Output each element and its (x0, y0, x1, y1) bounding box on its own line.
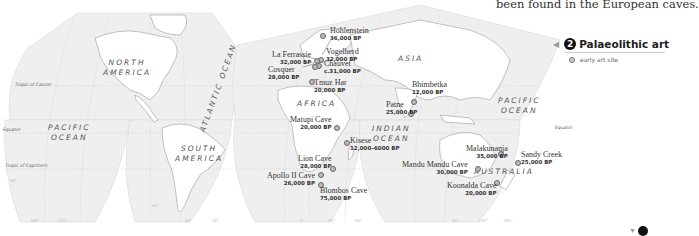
site-date: 25,000 BP (521, 159, 562, 166)
site-date: 36,000 BP (330, 35, 369, 42)
label-line: OCEAN (501, 106, 538, 115)
next-section-marker: ▼ (629, 226, 648, 236)
label-pacific-ocean-east: PACIFIC OCEAN (498, 96, 541, 116)
site-cosquer: Cosquer 28,000 BP (268, 66, 299, 81)
label-equator-west: Equator (3, 127, 21, 132)
degree-label: 120° (478, 218, 488, 223)
site-chauvet: Chauvet c.31,000 BP (324, 60, 361, 75)
degree-label: 30° (10, 178, 17, 183)
site-name: Apollo II Cave (267, 171, 315, 180)
label-line: PACIFIC (498, 96, 541, 105)
label-south-america: SOUTH AMERICA (175, 144, 223, 164)
label-tropic-of-capricorn: Tropic of Capricorn (5, 163, 48, 168)
site-date: 20,000 BP (314, 87, 347, 94)
degree-label: 0° (300, 218, 305, 223)
site-blombos-cave: Blombos Cave 75,000 BP (320, 187, 367, 202)
label-australia: AUSTRALIA (474, 167, 534, 177)
degree-label: 30° (212, 218, 219, 223)
label-line: NORTH (109, 58, 146, 67)
legend-title-row: ◀ 2 Palaeolithic art (553, 38, 669, 50)
site-lion-cave: Lion Cave 28,000 BP (298, 155, 332, 170)
label-line: OCEAN (51, 133, 88, 142)
site-date: 26,000 BP (267, 180, 315, 187)
label-line: PACIFIC (48, 123, 91, 132)
site-dot[interactable] (320, 33, 326, 39)
site-date: 20,000 BP (447, 190, 497, 197)
triangle-down-icon: ▼ (629, 227, 636, 235)
site-la-ferrassie: La Ferrassie 32,000 BP (272, 51, 311, 66)
site-dot[interactable] (334, 125, 340, 131)
label-line: AMERICA (103, 68, 151, 77)
site-name: Lion Cave (298, 154, 332, 163)
site-patne: Patne 25,000 BP (386, 101, 417, 116)
site-name: Cosquer (268, 65, 295, 74)
legend-number-badge: 2 (564, 38, 576, 50)
site-date: 35,000 BP (466, 153, 508, 160)
label-equator-east: Equator (555, 125, 573, 130)
site-date: 12,000 BP (412, 89, 447, 96)
label-line: AMERICA (175, 154, 223, 163)
site-sandy-creek: Sandy Creek 25,000 BP (521, 151, 562, 166)
site-date: 28,000 BP (298, 163, 332, 170)
label-pacific-ocean-west: PACIFIC OCEAN (48, 123, 91, 143)
site-name: Chauvet (324, 59, 351, 68)
site-name: Sandy Creek (521, 150, 562, 159)
site-name: Vogelherd (326, 47, 359, 56)
legend-divider (565, 52, 665, 53)
label-line: INDIAN (372, 124, 411, 133)
degree-label: 120° (58, 218, 68, 223)
triangle-left-icon: ◀ (553, 40, 559, 49)
site-apollo-ii-cave: Apollo II Cave 26,000 BP (267, 172, 315, 187)
site-date: 25,000 BP (386, 109, 417, 116)
site-malakunanja: Malakunanja 35,000 BP (466, 145, 508, 160)
label-line: SOUTH (181, 144, 217, 153)
degree-label: 30° (328, 218, 335, 223)
site-mandu-mandu-cave: Mandu Mandu Cave 30,000 BP (402, 161, 468, 176)
art-site-dot-icon (569, 57, 575, 63)
site-hohlenstein: Hohlenstein 36,000 BP (330, 27, 369, 42)
label-north-america: NORTH AMERICA (103, 58, 151, 78)
site-name: Bhimbetka (412, 80, 447, 89)
section-number-badge (638, 226, 648, 236)
site-date: 28,000 BP (268, 74, 299, 81)
site-name: Patne (386, 100, 404, 109)
site-name: Mandu Mandu Cave (402, 160, 468, 169)
site-date: 30,000 BP (402, 169, 468, 176)
site-date: 12,000–6000 BP (350, 145, 399, 152)
label-africa: AFRICA (297, 99, 336, 109)
site-name: Koonalda Cave (447, 181, 497, 190)
degree-label: 150° (503, 218, 513, 223)
degree-label: 180° (30, 218, 40, 223)
label-tropic-of-cancer: Tropic of Cancer (15, 82, 52, 87)
caption-text: been found in the European caves. (496, 0, 699, 11)
site-date: 75,000 BP (320, 195, 367, 202)
degree-label: 90° (152, 203, 159, 208)
site-date: 20,000 BP (290, 124, 332, 131)
site-name: Tmuz Har (314, 78, 347, 87)
site-name: Matupi Cave (290, 115, 332, 124)
site-name: Malakunanja (466, 144, 508, 153)
site-dot[interactable] (312, 64, 318, 70)
site-name: La Ferrassie (272, 50, 311, 59)
site-koonalda-cave: Koonalda Cave 20,000 BP (447, 182, 497, 197)
degree-label: 60° (355, 218, 362, 223)
label-asia: ASIA (398, 54, 423, 64)
site-dot[interactable] (318, 172, 324, 178)
degree-label: 90° (452, 218, 459, 223)
site-matupi-cave: Matupi Cave 20,000 BP (290, 116, 332, 131)
site-kisese: Kisese 12,000–6000 BP (350, 137, 399, 152)
site-bhimbetka: Bhimbetka 12,000 BP (412, 81, 447, 96)
site-name: Blombos Cave (320, 186, 367, 195)
legend: ◀ 2 Palaeolithic art early art site (553, 38, 669, 63)
site-name: Kisese (350, 136, 371, 145)
site-tmuz-har: Tmuz Har 20,000 BP (314, 79, 347, 94)
legend-title: Palaeolithic art (579, 38, 669, 50)
legend-item-label: early art site (580, 56, 618, 63)
degree-label: 60° (185, 218, 192, 223)
site-name: Hohlenstein (330, 26, 369, 35)
site-dot[interactable] (475, 166, 481, 172)
site-date: c.31,000 BP (324, 68, 361, 75)
legend-item: early art site (569, 56, 669, 63)
